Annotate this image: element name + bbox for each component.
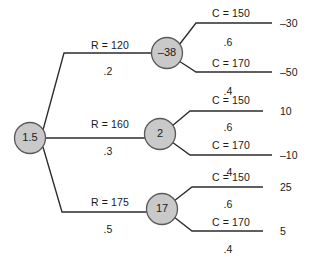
leaf-bottom-c170-probability: .4 — [224, 244, 233, 255]
tree-graphics-layer: 1.5–38217 — [0, 0, 314, 258]
leaf-middle-c150-label: C = 150 — [212, 95, 250, 106]
decision-tree-diagram: 1.5–38217 R = 120.2C = 150.6–30C = 170.4… — [0, 0, 314, 258]
chance-node-2-label: 2 — [157, 127, 163, 139]
leaf-top-c170-value: –50 — [280, 67, 298, 78]
chance-node-17-label: 17 — [156, 202, 168, 214]
branch-top-label: R = 120 — [91, 40, 129, 51]
leaf-bottom-c150-value: 25 — [280, 182, 292, 193]
branch-middle-label: R = 160 — [91, 119, 129, 130]
leaf-middle-c170-label: C = 170 — [212, 140, 250, 151]
leaf-bottom-c170-value: 5 — [280, 226, 286, 237]
branch-bottom-label: R = 175 — [91, 197, 129, 208]
leaf-middle-c170-value: –10 — [280, 150, 298, 161]
branch-bottom-probability: .5 — [104, 224, 113, 235]
leaf-bottom-c150-label: C = 150 — [212, 172, 250, 183]
leaf-middle-c150-value: 10 — [280, 106, 292, 117]
branch-top-probability: .2 — [104, 66, 113, 77]
leaf-top-c170-label: C = 170 — [212, 58, 250, 69]
leaf-middle-c150-edge — [172, 111, 263, 126]
leaf-bottom-c170-label: C = 170 — [212, 217, 250, 228]
branch-middle-probability: .3 — [104, 146, 113, 157]
leaf-middle-c150-probability: .6 — [224, 122, 233, 133]
leaf-bottom-c150-probability: .6 — [224, 199, 233, 210]
leaf-bottom-c150-edge — [174, 187, 263, 201]
chance-node-minus-38-label: –38 — [158, 46, 176, 58]
root-node-label: 1.5 — [22, 131, 37, 143]
leaf-top-c150-value: –30 — [280, 18, 298, 29]
leaf-top-c150-label: C = 150 — [212, 8, 250, 19]
leaf-top-c150-probability: .6 — [224, 37, 233, 48]
